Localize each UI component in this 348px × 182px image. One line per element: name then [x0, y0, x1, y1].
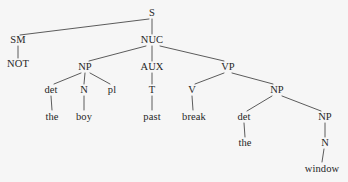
tree-node-break: break: [182, 112, 206, 123]
tree-edge-NP2-to-det2: [247, 96, 272, 111]
tree-node-NUC: NUC: [141, 35, 163, 46]
tree-node-NP1: NP: [78, 62, 92, 73]
tree-node-N2: N: [321, 138, 329, 149]
tree-edge-S-to-SM: [20, 19, 149, 35]
tree-node-the2: the: [238, 138, 251, 149]
tree-node-T: T: [149, 85, 156, 96]
tree-edge-NP1-to-pl: [90, 73, 110, 84]
tree-node-det1: det: [44, 85, 57, 96]
tree-edge-NP1-to-det1: [54, 73, 81, 84]
tree-edge-det2-to-the2: [244, 123, 245, 137]
syntax-tree-figure: SSMNUCNOTNPAUXVPdetNplTVNPtheboypastbrea…: [0, 0, 348, 182]
tree-edge-V-to-break: [192, 96, 193, 110]
tree-node-window: window: [305, 164, 339, 175]
tree-node-V: V: [188, 85, 196, 96]
tree-edge-VP-to-NP2: [232, 73, 273, 84]
tree-node-NP3: NP: [318, 112, 332, 123]
tree-node-det2: det: [237, 112, 250, 123]
tree-node-NOT: NOT: [7, 59, 29, 70]
tree-node-S: S: [149, 8, 155, 19]
tree-edge-det1-to-the1: [51, 96, 52, 110]
tree-edge-VP-to-V: [195, 73, 224, 84]
tree-node-NP2: NP: [270, 85, 284, 96]
tree-node-VP: VP: [221, 62, 235, 73]
tree-edge-NUC-to-NP1: [89, 46, 146, 61]
tree-node-the1: the: [45, 112, 58, 123]
tree-node-pl: pl: [108, 85, 116, 96]
tree-node-SM: SM: [10, 35, 25, 46]
tree-edge-NP1-to-N1: [84, 73, 85, 84]
tree-node-boy: boy: [76, 112, 92, 123]
tree-edge-NUC-to-VP: [160, 46, 224, 61]
tree-edge-NP2-to-NP3: [282, 96, 321, 111]
tree-edge-N2-to-window: [322, 149, 324, 162]
tree-node-N1: N: [80, 85, 88, 96]
tree-node-AUX: AUX: [140, 62, 163, 73]
tree-node-past: past: [143, 112, 160, 123]
